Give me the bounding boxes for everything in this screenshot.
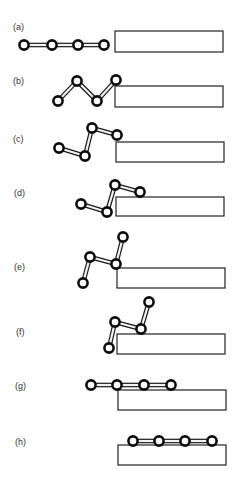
- joint-circle-icon: [111, 75, 120, 84]
- joint-circle-icon: [111, 259, 120, 268]
- panel-a: (a): [13, 22, 223, 52]
- joint-circle-icon: [128, 436, 137, 445]
- joint-circle-icon: [118, 232, 127, 241]
- panel-d: (d): [14, 180, 224, 216]
- joint-circle-icon: [92, 96, 101, 105]
- joint-circle-icon: [87, 123, 96, 132]
- panel-b: (b): [13, 75, 223, 107]
- joint-circle-icon: [136, 324, 145, 333]
- joint-circle-icon: [144, 297, 153, 306]
- panel-label: (d): [14, 188, 25, 198]
- panel-label: (h): [15, 437, 26, 447]
- joint-circle-icon: [135, 187, 144, 196]
- panel-label: (e): [14, 262, 25, 272]
- joint-circle-icon: [139, 380, 148, 389]
- joint-circle-icon: [86, 380, 95, 389]
- panel-label: (b): [13, 76, 24, 86]
- joint-circle-icon: [207, 436, 216, 445]
- joint-circle-icon: [104, 343, 113, 352]
- linkage-sequence-diagram: (a)(b)(c)(d)(e)(f)(g)(h): [0, 0, 238, 484]
- joint-circle-icon: [78, 278, 87, 287]
- panel-h: (h): [15, 436, 226, 465]
- surface-block: [115, 86, 223, 107]
- joint-circle-icon: [85, 252, 94, 261]
- joint-circle-icon: [154, 436, 163, 445]
- joint-circle-icon: [112, 130, 121, 139]
- joint-circle-icon: [76, 199, 85, 208]
- panel-e: (e): [14, 232, 225, 288]
- surface-block: [116, 142, 224, 162]
- joint-circle-icon: [110, 180, 119, 189]
- panel-f: (f): [16, 297, 225, 354]
- joint-circle-icon: [19, 40, 28, 49]
- joint-circle-icon: [73, 40, 82, 49]
- surface-block: [116, 197, 224, 216]
- joint-circle-icon: [53, 96, 62, 105]
- surface-block: [118, 390, 226, 410]
- panel-label: (c): [13, 134, 24, 144]
- link-chain: [58, 80, 116, 101]
- surface-block: [118, 445, 226, 465]
- joint-circle-icon: [166, 380, 175, 389]
- joint-circle-icon: [180, 436, 189, 445]
- joint-circle-icon: [47, 40, 56, 49]
- joint-circle-icon: [112, 380, 121, 389]
- panel-g: (g): [15, 380, 226, 410]
- surface-block: [117, 268, 225, 288]
- joint-circle-icon: [80, 151, 89, 160]
- panel-label: (a): [13, 22, 24, 32]
- surface-block: [117, 334, 225, 354]
- joint-circle-icon: [54, 143, 63, 152]
- surface-block: [115, 31, 223, 52]
- panel-c: (c): [13, 123, 224, 162]
- panel-label: (f): [16, 327, 25, 337]
- joint-circle-icon: [102, 207, 111, 216]
- panel-label: (g): [15, 381, 26, 391]
- joint-circle-icon: [72, 76, 81, 85]
- joint-circle-icon: [99, 40, 108, 49]
- joint-circle-icon: [110, 317, 119, 326]
